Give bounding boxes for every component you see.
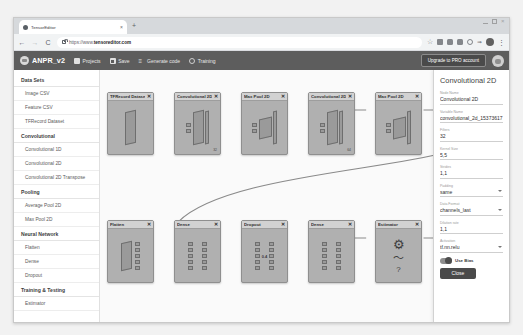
close-icon[interactable]: ✕ (415, 222, 419, 227)
minimize-icon[interactable] (483, 23, 488, 24)
node-title: TFRecord Dataset (110, 94, 145, 99)
node-header[interactable]: Dense ✕ (309, 221, 354, 229)
maximize-icon[interactable] (492, 19, 497, 24)
use-bias-label: Use Bias (455, 258, 474, 263)
extensions-icon[interactable] (437, 39, 443, 45)
new-tab-button[interactable]: + (132, 19, 136, 34)
sidebar-item-dropout[interactable]: Dropout (14, 269, 99, 283)
variable-name-input[interactable]: convolutional_2d_15373617 (440, 114, 503, 124)
graph-node[interactable]: Max Pool 2D ✕ (375, 92, 422, 155)
sidebar-item-flatten[interactable]: Flatten (14, 241, 99, 255)
node-header[interactable]: Dense ✕ (175, 221, 220, 229)
node-header[interactable]: TFRecord Dataset ✕ (108, 93, 153, 101)
close-icon[interactable]: ✕ (348, 94, 352, 99)
browser-omnibox-row: ← → C https://www.tensoreditor.com ☆ ➟ ⋮ (14, 34, 509, 51)
close-icon[interactable]: ✕ (214, 94, 218, 99)
bookmark-star-icon[interactable]: ☆ (427, 39, 433, 45)
data-format-select[interactable]: channels_last (440, 206, 503, 216)
strides-input[interactable]: 1,1 (440, 169, 503, 179)
node-header[interactable]: Convolutional 2D ✕ (175, 93, 220, 101)
upgrade-pro-button[interactable]: Upgrade to PRO account (421, 54, 486, 67)
reload-button[interactable]: C (44, 39, 52, 46)
save-icon (110, 58, 116, 64)
close-icon[interactable]: ✕ (147, 222, 151, 227)
projects-icon (74, 58, 80, 64)
close-button[interactable]: Close (440, 268, 476, 279)
graph-node[interactable]: Dropout ✕ 0.4 (241, 220, 288, 283)
node-title: Dense (311, 222, 346, 227)
node-header[interactable]: Dropout ✕ (242, 221, 287, 229)
dilation-rate-input[interactable]: 1,1 (440, 225, 503, 235)
graph-node[interactable]: TFRecord Dataset ✕ (107, 92, 154, 155)
question-icon: ? (396, 266, 400, 274)
conv-output-icon (339, 111, 343, 145)
extension-icon-1[interactable] (447, 39, 453, 45)
estimator-glyph: ⚙ 〜 ? (393, 238, 405, 274)
toolbar-item-generate-code[interactable]: ≡ Generate code (139, 58, 181, 64)
graph-node[interactable]: Dense ✕ (174, 220, 221, 283)
sidebar-heading-training-testing: Training & Testing (14, 283, 99, 297)
forward-button[interactable]: → (31, 39, 39, 46)
node-header[interactable]: Max Pool 2D ✕ (376, 93, 421, 101)
graph-node[interactable]: Estimator ✕ ⚙ 〜 ? (375, 220, 422, 283)
browser-tab[interactable]: TensorEditor × (19, 20, 127, 34)
graph-node[interactable]: Flatten ✕ (107, 220, 154, 283)
app-brand[interactable]: ANPR_v2 (20, 56, 65, 65)
back-button[interactable]: ← (18, 39, 26, 46)
close-icon[interactable]: × (120, 25, 123, 30)
node-header[interactable]: Convolutional 2D ✕ (309, 93, 354, 101)
close-icon[interactable]: ✕ (348, 222, 352, 227)
sidebar-heading-convolutional: Convolutional (14, 129, 99, 143)
toolbar-label-save: Save (118, 58, 129, 64)
lock-icon (62, 40, 66, 44)
filters-input[interactable]: 32 (440, 132, 503, 142)
sidebar-item-estimator[interactable]: Estimator (14, 297, 99, 311)
layers-sidebar[interactable]: Data Sets Image CSV Feature CSV TFRecord… (14, 70, 100, 323)
close-icon[interactable]: ✕ (281, 222, 285, 227)
graph-node[interactable]: Convolutional 2D ✕ 32 (174, 92, 221, 155)
sidebar-item-average-pool-2d[interactable]: Average Pool 2D (14, 199, 99, 213)
node-header[interactable]: Estimator ✕ (376, 221, 421, 229)
graph-node[interactable]: Convolutional 2D ✕ 64 (308, 92, 355, 155)
sidebar-item-convolutional-1d[interactable]: Convolutional 1D (14, 143, 99, 157)
close-icon[interactable]: ✕ (415, 94, 419, 99)
kernel-size-input[interactable]: 5,5 (440, 151, 503, 161)
toolbar-item-projects[interactable]: Projects (74, 58, 101, 64)
sidebar-heading-neural-network: Neural Network (14, 227, 99, 241)
close-icon[interactable]: ✕ (214, 222, 218, 227)
close-icon[interactable]: ✕ (147, 94, 151, 99)
sidebar-item-tfrecord-dataset[interactable]: TFRecord Dataset (14, 115, 99, 129)
node-midlabel: 0.4 (262, 253, 268, 258)
node-header[interactable]: Flatten ✕ (108, 221, 153, 229)
window-close-icon[interactable]: × (501, 19, 506, 24)
activation-select[interactable]: tf.nn.relu (440, 243, 503, 253)
chevron-down-icon (498, 209, 502, 211)
chrome-menu-icon[interactable]: ⋮ (498, 39, 505, 46)
toolbar-item-training[interactable]: Training (189, 58, 215, 64)
sidebar-item-image-csv[interactable]: Image CSV (14, 87, 99, 101)
extension-icon-4[interactable]: ➟ (477, 39, 482, 45)
sidebar-item-max-pool-2d[interactable]: Max Pool 2D (14, 213, 99, 227)
node-title: Flatten (110, 222, 145, 227)
extension-icon-3[interactable] (467, 39, 473, 45)
sidebar-item-convolutional-2d-transpose[interactable]: Convolutional 2D Transpose (14, 171, 99, 185)
padding-select[interactable]: same (440, 188, 503, 198)
properties-title: Convolutional 2D (440, 76, 503, 85)
sidebar-item-convolutional-2d[interactable]: Convolutional 2D (14, 157, 99, 171)
profile-avatar[interactable] (486, 38, 494, 46)
node-header[interactable]: Max Pool 2D ✕ (242, 93, 287, 101)
extension-icon-2[interactable] (457, 39, 463, 45)
use-bias-toggle[interactable] (440, 258, 452, 264)
graph-node[interactable]: Max Pool 2D ✕ (241, 92, 288, 155)
user-avatar[interactable] (492, 55, 504, 67)
node-body (309, 229, 354, 282)
graph-node[interactable]: Dense ✕ (308, 220, 355, 283)
sidebar-item-dense[interactable]: Dense (14, 255, 99, 269)
sidebar-item-feature-csv[interactable]: Feature CSV (14, 101, 99, 115)
flatten-glyph-icon (121, 240, 132, 271)
field-padding: Padding same (440, 184, 503, 198)
node-name-input[interactable]: Convolutional 2D (440, 95, 503, 105)
toolbar-item-save[interactable]: Save (110, 58, 130, 64)
address-bar[interactable]: https://www.tensoreditor.com (57, 37, 422, 48)
close-icon[interactable]: ✕ (281, 94, 285, 99)
